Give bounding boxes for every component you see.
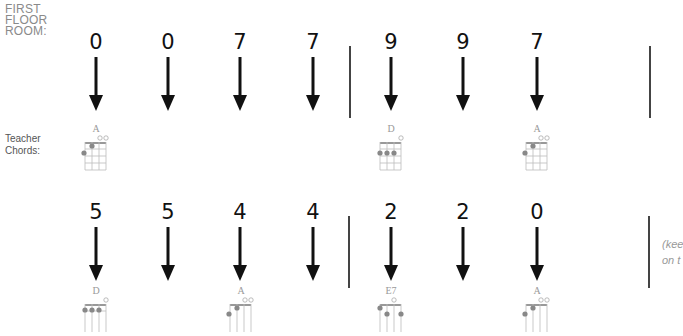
chord-diagram-e7: E7 [374, 286, 408, 336]
chord-name: E7 [374, 286, 408, 296]
chord-name: A [520, 286, 554, 296]
bar-line [348, 216, 350, 288]
ukulele-chord-d-icon [79, 296, 113, 336]
room-label: FIRST FLOOR ROOM: [5, 4, 47, 37]
beat: 0 [153, 31, 183, 111]
down-arrow-icon [160, 57, 176, 111]
beat: 7 [522, 31, 552, 111]
ukulele-chord-a-icon [520, 134, 554, 174]
beat: 4 [298, 201, 328, 281]
beat-number: 0 [522, 201, 552, 223]
beat-number: 5 [153, 201, 183, 223]
beat-number: 7 [522, 31, 552, 53]
chord-diagram-a: A [520, 124, 554, 178]
down-arrow-icon [232, 227, 248, 281]
beat-number: 7 [298, 31, 328, 53]
side-note: (kee on t [662, 236, 683, 268]
beat: 9 [448, 31, 478, 111]
beat: 4 [225, 201, 255, 281]
ukulele-chord-a-icon [520, 296, 554, 336]
down-arrow-icon [455, 227, 471, 281]
beat: 0 [81, 31, 111, 111]
ukulele-chord-a-icon [79, 134, 113, 174]
down-arrow-icon [160, 227, 176, 281]
teacher-label-line1: Teacher [5, 133, 41, 145]
chord-diagram-a: A [224, 286, 258, 336]
beat-number: 4 [225, 201, 255, 223]
down-arrow-icon [529, 227, 545, 281]
down-arrow-icon [232, 57, 248, 111]
down-arrow-icon [455, 57, 471, 111]
teacher-chords-label: Teacher Chords: [5, 133, 41, 157]
chord-name: A [79, 124, 113, 134]
side-note-line1: (kee [662, 236, 683, 252]
down-arrow-icon [529, 57, 545, 111]
beat-number: 2 [448, 201, 478, 223]
bar-line [648, 216, 650, 288]
beat-number: 9 [376, 31, 406, 53]
side-note-line2: on t [662, 252, 683, 268]
ukulele-chord-a-icon [224, 296, 258, 336]
chord-diagram-a: A [520, 286, 554, 336]
beat: 9 [376, 31, 406, 111]
beat-number: 0 [81, 31, 111, 53]
beat: 2 [376, 201, 406, 281]
room-label-line3: ROOM: [5, 26, 47, 37]
chord-diagram-d: D [79, 286, 113, 336]
ukulele-chord-d-icon [374, 134, 408, 174]
beat: 0 [522, 201, 552, 281]
ukulele-chord-e7-icon [374, 296, 408, 336]
chord-name: A [520, 124, 554, 134]
beat-number: 9 [448, 31, 478, 53]
beat-number: 4 [298, 201, 328, 223]
beat: 5 [81, 201, 111, 281]
beat-number: 7 [225, 31, 255, 53]
bar-line [349, 46, 351, 118]
beat: 5 [153, 201, 183, 281]
teacher-label-line2: Chords: [5, 145, 41, 157]
down-arrow-icon [383, 227, 399, 281]
chord-name: D [79, 286, 113, 296]
down-arrow-icon [88, 227, 104, 281]
down-arrow-icon [383, 57, 399, 111]
beat: 7 [225, 31, 255, 111]
beat-number: 0 [153, 31, 183, 53]
beat-number: 5 [81, 201, 111, 223]
bar-line [649, 46, 651, 118]
chord-name: D [374, 124, 408, 134]
beat: 2 [448, 201, 478, 281]
chord-diagram-d: D [374, 124, 408, 178]
beat: 7 [298, 31, 328, 111]
down-arrow-icon [88, 57, 104, 111]
down-arrow-icon [305, 227, 321, 281]
chord-name: A [224, 286, 258, 296]
chord-diagram-a: A [79, 124, 113, 178]
beat-number: 2 [376, 201, 406, 223]
down-arrow-icon [305, 57, 321, 111]
